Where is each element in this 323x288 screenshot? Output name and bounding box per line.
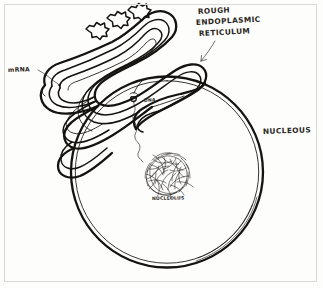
label-rough-er-line3: RETICULUM [199, 26, 251, 38]
diagram-canvas: ROUGH ENDOPLASMIC RETICULUM mRNA DNA NUC… [0, 0, 323, 288]
label-nucleolus: NUCLEOLUS [152, 195, 185, 201]
ribosome-icon [107, 12, 130, 29]
label-dna: DNA [144, 97, 156, 103]
label-rough-er-line2: ENDOPLASMIC [196, 15, 261, 27]
ribosome-icon [128, 4, 151, 21]
label-nucleus: NUCLEOUS [263, 125, 311, 136]
mrna-dot [58, 84, 61, 87]
rer-annotation [201, 41, 215, 61]
label-rough-er-line1: ROUGH [198, 5, 231, 16]
ribosome-icon [86, 23, 109, 40]
label-mrna: mRNA [8, 65, 30, 73]
cell-diagram-figure: ROUGH ENDOPLASMIC RETICULUM mRNA DNA NUC… [0, 0, 323, 288]
rer-leader-line [201, 41, 215, 61]
